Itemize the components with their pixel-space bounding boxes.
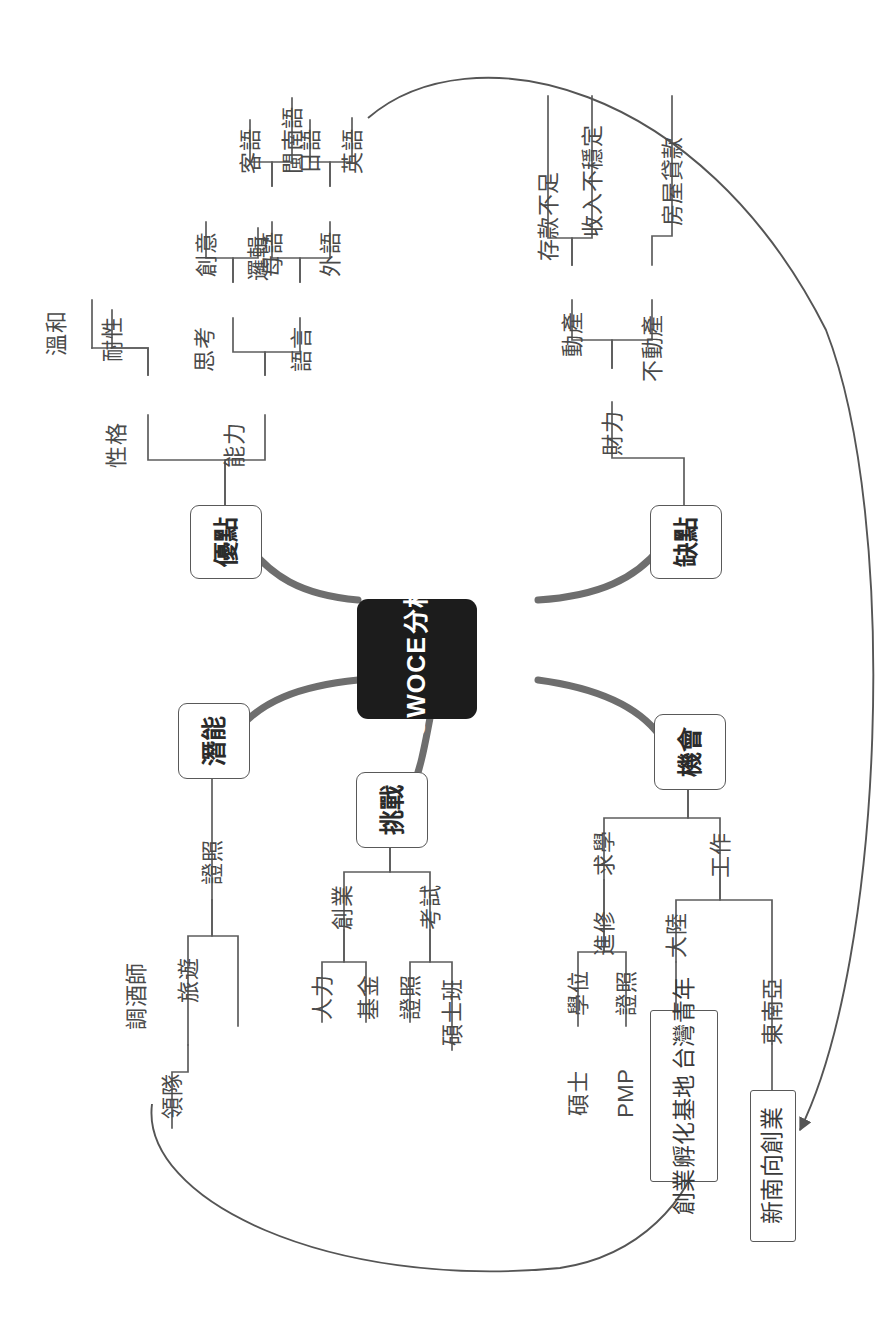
node-bartender[interactable]: 調酒師 [120,948,154,1044]
node-movable-assets-label: 動產 [562,312,584,357]
node-work[interactable]: 工作 [704,822,738,888]
node-exam-license[interactable]: 證照 [394,964,428,1030]
node-gentle[interactable]: 溫和 [40,300,74,366]
node-strengths[interactable]: 優點 [190,505,262,579]
node-immovable-assets-label: 不動產 [642,314,664,382]
node-weaknesses[interactable]: 缺點 [650,505,722,579]
node-insufficient-savings[interactable]: 存款不足 [532,168,566,264]
node-travel[interactable]: 旅遊 [172,946,206,1014]
node-unstable-income[interactable]: 收入不穩定 [576,96,610,266]
node-bartender-label: 調酒師 [126,962,148,1030]
center-label-en: SWOCE [404,636,430,735]
node-mainland-label: 大陸 [666,913,688,958]
node-southeast-asia[interactable]: 東南亞 [756,968,790,1054]
node-master-class[interactable]: 碩士班 [436,964,470,1060]
node-study[interactable]: 求學 [588,820,622,886]
node-english-label: 英語 [342,129,364,174]
node-potential[interactable]: 潛能 [178,703,250,779]
node-master-class-label: 碩士班 [442,978,464,1046]
node-startup-label: 創業 [332,885,354,930]
node-thinking[interactable]: 思考 [188,316,222,382]
node-insufficient-savings-label: 存款不足 [538,171,560,261]
node-mainland[interactable]: 大陸 [660,902,694,968]
node-taiwan-youth-line2: 創業孵化基地 [672,1074,695,1215]
mindmap-canvas: 分析 SWOCE 優點 缺點 潛能 挑戰 機會 性格 能力 耐性 溫和 思考 語… [0,0,896,1320]
node-personality[interactable]: 性格 [100,412,134,478]
branch-opportunities [538,680,660,736]
node-immovable-assets[interactable]: 不動產 [636,300,670,396]
node-exam-label: 考試 [420,885,442,930]
node-degree-label: 學位 [568,971,590,1016]
node-foreign-language-label: 外語 [320,232,342,277]
node-new-southbound-label: 新南向創業 [761,1107,784,1225]
node-study-license[interactable]: 證照 [610,960,644,1026]
crosslink-tourleader-to-incubator [151,1104,702,1271]
node-creativity-label: 創意 [196,232,218,277]
node-study-label: 求學 [594,831,616,876]
node-taiwan-youth-line1: 台灣青年 [672,976,695,1070]
node-patience[interactable]: 耐性 [96,306,130,372]
node-hakka[interactable]: 客語 [234,118,268,184]
node-finance[interactable]: 財力 [596,400,630,466]
node-language[interactable]: 語言 [285,316,319,382]
node-study-license-label: 證照 [616,971,638,1016]
node-movable-assets[interactable]: 動產 [556,300,590,368]
node-japanese[interactable]: 日語 [294,118,328,184]
node-foreign-language[interactable]: 外語 [314,222,348,286]
node-fund[interactable]: 基金 [352,964,386,1030]
node-manpower-label: 人力 [312,975,334,1020]
node-gentle-label: 溫和 [46,311,68,356]
node-patience-label: 耐性 [102,317,124,362]
node-finance-label: 財力 [602,411,624,456]
node-master-degree[interactable]: 碩士 [562,1060,596,1126]
node-further-study[interactable]: 進修 [588,900,622,966]
node-challenges-label: 挑戰 [379,785,405,836]
node-tour-leader-label: 領隊 [162,1074,184,1119]
node-master-degree-label: 碩士 [568,1071,590,1116]
node-challenges[interactable]: 挑戰 [356,772,428,848]
node-degree[interactable]: 學位 [562,960,596,1026]
node-exam-license-label: 證照 [400,975,422,1020]
node-house-loan-label: 房屋貸款 [662,136,684,226]
node-ability-label: 能力 [224,423,246,468]
node-work-label: 工作 [710,833,732,878]
node-pmp[interactable]: PMP [610,1060,644,1126]
node-mother-tongue-label: 母語 [262,232,284,277]
node-further-study-label: 進修 [594,911,616,956]
node-house-loan[interactable]: 房屋貸款 [656,96,690,266]
node-new-southbound-startup[interactable]: 新南向創業 [750,1090,796,1242]
branch-weaknesses [538,548,660,600]
node-unstable-income-label: 收入不穩定 [582,125,604,238]
node-personality-label: 性格 [106,423,128,468]
node-thinking-label: 思考 [194,327,216,372]
node-pmp-label: PMP [616,1068,638,1117]
branch-strengths [248,545,358,600]
node-creativity[interactable]: 創意 [190,222,224,286]
branch-potential [236,680,358,732]
node-weaknesses-label: 缺點 [673,517,699,568]
node-potential-label: 潛能 [201,716,227,767]
node-fund-label: 基金 [358,975,380,1020]
node-tour-leader[interactable]: 領隊 [156,1062,190,1130]
node-opportunities[interactable]: 機會 [654,714,726,790]
node-mother-tongue[interactable]: 母語 [256,222,290,286]
node-hakka-label: 客語 [240,129,262,174]
center-node[interactable]: 分析 SWOCE [358,600,476,718]
node-language-label: 語言 [291,327,313,372]
node-manpower[interactable]: 人力 [306,964,340,1030]
node-strengths-label: 優點 [213,517,239,568]
node-startup[interactable]: 創業 [326,874,360,940]
center-label-zh: 分析 [404,582,430,634]
node-japanese-label: 日語 [300,129,322,174]
node-exam[interactable]: 考試 [414,874,448,940]
node-potential-license-label: 證照 [202,840,224,885]
node-opportunities-label: 機會 [677,727,703,778]
node-english[interactable]: 英語 [336,118,370,184]
node-southeast-asia-label: 東南亞 [762,977,784,1045]
node-travel-label: 旅遊 [178,958,200,1003]
node-potential-license[interactable]: 證照 [196,828,230,896]
node-ability[interactable]: 能力 [218,412,252,478]
node-taiwan-youth-incubator[interactable]: 台灣青年 創業孵化基地 [650,1010,718,1182]
